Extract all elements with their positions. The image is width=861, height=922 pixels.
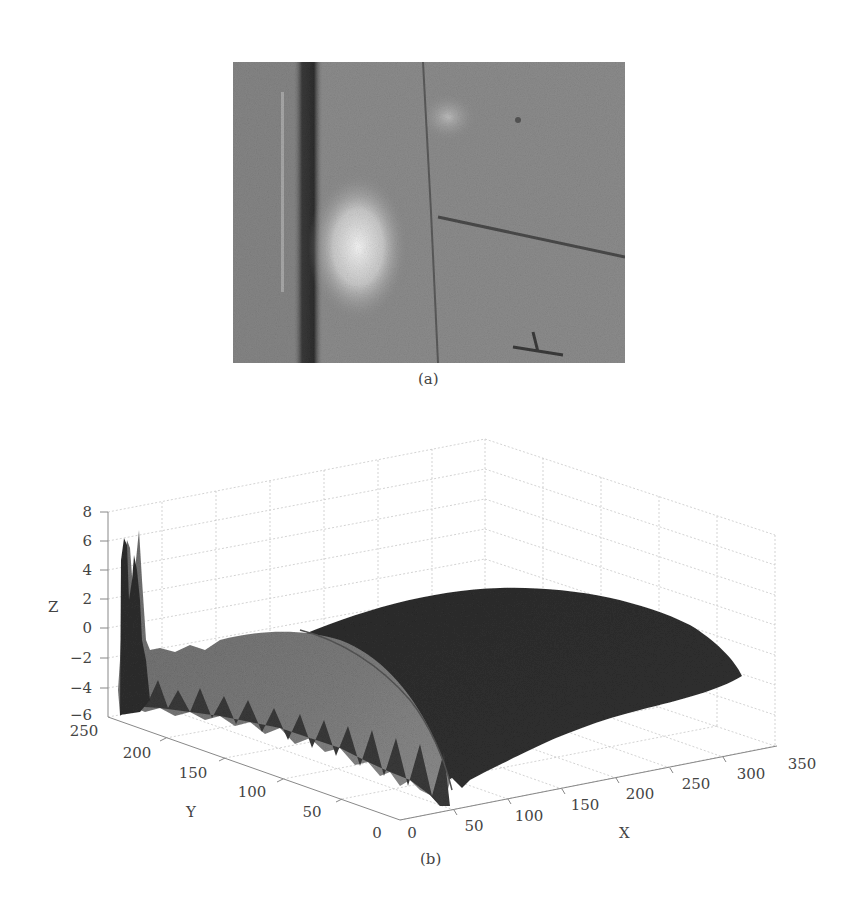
z-tick: 4 (82, 561, 92, 579)
x-tick: 200 (626, 785, 655, 803)
x-tick-labels: 0 50 100 150 200 250 300 350 (407, 755, 816, 842)
x-tick: 250 (682, 775, 711, 793)
photo-image (233, 62, 625, 363)
x-tick: 100 (515, 807, 544, 825)
caption-b: (b) (420, 850, 441, 868)
y-tick: 100 (238, 783, 267, 801)
x-axis-line (400, 746, 777, 820)
z-tick: −2 (70, 649, 92, 667)
x-axis-label: X (619, 824, 630, 842)
z-tick: 0 (82, 619, 92, 637)
x-tick: 300 (737, 765, 766, 783)
x-tick: 50 (464, 817, 483, 835)
x-tick: 350 (788, 755, 817, 773)
surface-dome (118, 530, 742, 806)
grid-lines (108, 439, 775, 820)
z-tick: 2 (82, 590, 92, 608)
y-axis-label: Y (185, 803, 197, 821)
z-tick: 8 (82, 503, 92, 521)
y-tick: 250 (70, 722, 99, 740)
z-tick: 6 (82, 532, 92, 550)
z-tick: −4 (70, 679, 92, 697)
x-tick: 150 (571, 796, 600, 814)
photo-panel-a (233, 62, 625, 363)
caption-a: (a) (418, 370, 439, 388)
y-tick: 0 (372, 824, 382, 842)
z-tick-labels: 8 6 4 2 0 −2 −4 −6 (70, 503, 92, 724)
y-tick-labels: 250 200 150 100 50 0 (70, 722, 382, 842)
y-axis-line (108, 717, 400, 820)
y-tick: 150 (179, 764, 208, 782)
z-tick: −6 (70, 706, 92, 724)
y-tick: 200 (123, 744, 152, 762)
y-tick: 50 (302, 803, 321, 821)
axes (100, 512, 777, 820)
z-axis-label: Z (48, 598, 58, 616)
x-tick: 0 (407, 824, 417, 842)
